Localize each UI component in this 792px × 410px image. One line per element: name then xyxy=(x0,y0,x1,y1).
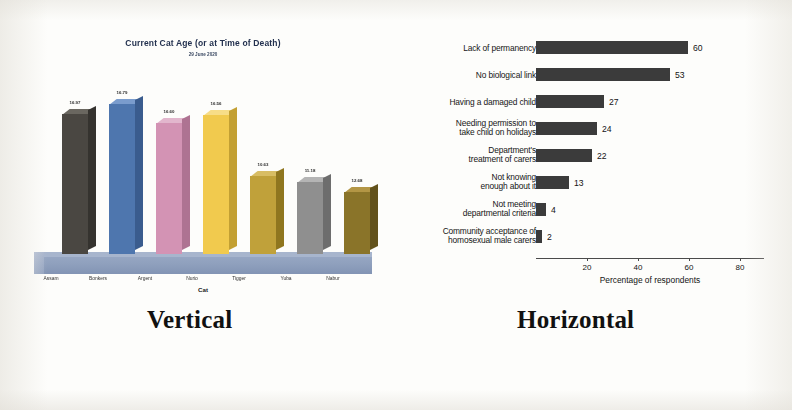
bar-front-face xyxy=(156,123,182,254)
bar-value-label: 22 xyxy=(597,151,607,161)
bar-value-label: 11.18 xyxy=(293,168,327,173)
bar-value-label: 16.79 xyxy=(105,90,139,95)
bar-value-label: 4 xyxy=(551,205,556,215)
caption-horizontal: Horizontal xyxy=(517,306,634,334)
bar-value-label: 27 xyxy=(609,97,619,107)
bar-column: 16.56 xyxy=(203,115,229,254)
x-axis-tick-label: 80 xyxy=(728,263,752,272)
bar xyxy=(536,122,597,135)
bar-side-face xyxy=(323,174,331,250)
bar-track: 24 xyxy=(536,115,764,142)
category-label-line1: Not meetingdepartmental criteria xyxy=(463,199,536,219)
bar-side-face xyxy=(276,168,284,250)
x-axis-title: Cat xyxy=(18,286,388,293)
bar-column: 16.97 xyxy=(62,114,88,254)
bar-side-face xyxy=(229,107,237,250)
bar-row: Department'streatment of carers 22 xyxy=(404,142,772,169)
bar-column: 16.79 xyxy=(109,104,135,254)
bar-value-label: 16.56 xyxy=(199,101,233,106)
category-label-line1: Department'streatment of carers xyxy=(469,145,536,165)
bar-track: 22 xyxy=(536,142,764,169)
bar xyxy=(536,41,688,54)
category-label-line1: Community acceptance ofhomosexual male c… xyxy=(443,226,536,246)
bar xyxy=(536,176,569,189)
bar xyxy=(536,230,542,243)
category-label: Needing permission totake child on holid… xyxy=(386,119,536,138)
bar-value-label: 2 xyxy=(547,232,552,242)
x-axis-tick xyxy=(740,258,741,261)
bar xyxy=(536,149,592,162)
bar-value-label: 16.60 xyxy=(152,109,186,114)
x-axis-tick xyxy=(689,258,690,261)
bar-front-face xyxy=(344,192,370,254)
category-label: Not knowingenough about it xyxy=(386,173,536,192)
x-axis-tick-label: 40 xyxy=(626,263,650,272)
category-label: Lack of permanency xyxy=(386,43,536,53)
bar-track: 4 xyxy=(536,196,764,223)
x-axis-tick xyxy=(638,258,639,261)
bar-side-face xyxy=(135,96,143,250)
bar-side-face xyxy=(370,184,378,250)
x-axis-tick xyxy=(587,258,588,261)
bar xyxy=(536,95,604,108)
bar-row: Lack of permanency 60 xyxy=(404,34,772,61)
bar-track: 13 xyxy=(536,169,764,196)
bar-track: 60 xyxy=(536,34,764,61)
x-axis-title: Percentage of respondents xyxy=(536,275,764,285)
bar xyxy=(536,68,670,81)
x-category-label: Nabur xyxy=(305,276,361,281)
vertical-chart-title: Current Cat Age (or at Time of Death) xyxy=(18,38,388,49)
bar-column: 11.18 xyxy=(297,182,323,254)
bar-track: 53 xyxy=(536,61,764,88)
scan-crop-edge xyxy=(398,226,406,252)
bar-front-face xyxy=(109,104,135,254)
bar-row: No biological link 53 xyxy=(404,61,772,88)
bar-front-face xyxy=(203,115,229,254)
caption-vertical: Vertical xyxy=(147,306,232,334)
bar-column: 10.63 xyxy=(250,176,276,254)
x-axis-line xyxy=(536,258,764,259)
bar-track: 27 xyxy=(536,88,764,115)
category-label: Department'streatment of carers xyxy=(386,146,536,165)
bar-column: 12.68 xyxy=(344,192,370,254)
chart-floor-left-edge xyxy=(34,252,44,274)
bar-front-face xyxy=(297,182,323,254)
bar-side-face xyxy=(88,106,96,250)
bar-track: 2 xyxy=(536,223,764,250)
bar-front-face xyxy=(250,176,276,254)
category-label: Community acceptance ofhomosexual male c… xyxy=(386,227,536,246)
bar-value-label: 16.97 xyxy=(58,100,92,105)
horizontal-chart-rows: Lack of permanency 60 No biological link… xyxy=(404,34,772,250)
category-label: Having a damaged child xyxy=(386,97,536,107)
x-axis-tick-label: 60 xyxy=(677,263,701,272)
bar-value-label: 13 xyxy=(574,178,584,188)
bar-value-label: 53 xyxy=(675,70,685,80)
category-label-line1: Needing permission totake child on holid… xyxy=(456,118,536,138)
bar-row: Needing permission totake child on holid… xyxy=(404,115,772,142)
bar-value-label: 60 xyxy=(693,43,703,53)
bar-column: 16.60 xyxy=(156,123,182,254)
category-label-line1: Not knowingenough about it xyxy=(481,172,537,192)
horizontal-bar-chart: Lack of permanency 60 No biological link… xyxy=(404,30,772,292)
category-label: Not meetingdepartmental criteria xyxy=(386,200,536,219)
bar-row: Not knowingenough about it 13 xyxy=(404,169,772,196)
bar-value-label: 10.63 xyxy=(246,162,280,167)
bar-row: Community acceptance ofhomosexual male c… xyxy=(404,223,772,250)
x-axis-tick-label: 20 xyxy=(575,263,599,272)
bar xyxy=(536,203,546,216)
bar-value-label: 24 xyxy=(602,124,612,134)
figure-comparison-bar-chart-orientations: Current Cat Age (or at Time of Death) 29… xyxy=(0,0,792,410)
chart-floor-plane xyxy=(42,252,372,274)
bar-value-label: 12.68 xyxy=(340,178,374,183)
vertical-chart-plot-area: 16.97 16.79 16.60 16.56 xyxy=(42,80,372,254)
vertical-bar-chart: Current Cat Age (or at Time of Death) 29… xyxy=(18,24,388,292)
bar-side-face xyxy=(182,115,190,250)
bar-row: Not meetingdepartmental criteria 4 xyxy=(404,196,772,223)
bar-row: Having a damaged child 27 xyxy=(404,88,772,115)
bar-front-face xyxy=(62,114,88,254)
category-label: No biological link xyxy=(386,70,536,80)
vertical-chart-subtitle: 29 June 2020 xyxy=(18,52,388,57)
